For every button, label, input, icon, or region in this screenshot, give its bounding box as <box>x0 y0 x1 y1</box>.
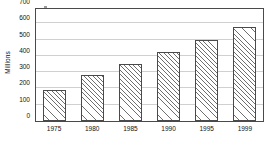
bar-1985 <box>119 64 142 121</box>
bar-1990 <box>157 52 180 121</box>
y-tick-label: 600 <box>19 14 30 21</box>
y-tick-label: 700 <box>19 0 30 5</box>
y-tick-label: 500 <box>19 30 30 37</box>
y-tick-label: 0 <box>26 112 30 119</box>
x-tick-label: 1980 <box>77 125 107 132</box>
x-tick-label: 1975 <box>39 125 69 132</box>
x-tick-label: 1999 <box>230 125 260 132</box>
x-tick-label: 1990 <box>154 125 184 132</box>
bar-1975 <box>43 90 66 121</box>
y-tick-label: 100 <box>19 95 30 102</box>
bar-chart: Millions 0100200300400500600700 19751980… <box>0 0 270 152</box>
y-tick-label: 200 <box>19 79 30 86</box>
bar-1999 <box>233 27 256 121</box>
y-tick-label: 300 <box>19 63 30 70</box>
bars-layer <box>36 9 263 121</box>
y-axis-title-text: Millions <box>4 51 11 73</box>
y-axis-tick-labels: 0100200300400500600700 <box>12 8 32 122</box>
x-tick-label: 1985 <box>115 125 145 132</box>
y-tick-label: 400 <box>19 46 30 53</box>
bar-1995 <box>195 40 218 121</box>
plot-area <box>35 8 264 122</box>
x-tick-label: 1995 <box>192 125 222 132</box>
bar-1980 <box>81 75 104 121</box>
x-axis-tick-labels: 197519801985199019951999 <box>35 125 264 139</box>
